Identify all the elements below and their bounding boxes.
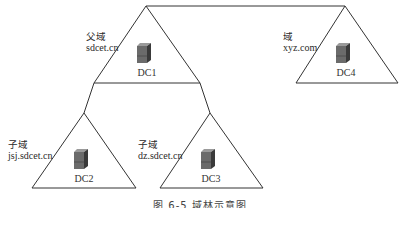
controller-label-dc2: DC2: [69, 173, 99, 184]
server-icon: [137, 43, 151, 63]
domain-name: dz.sdcet.cn: [138, 150, 182, 161]
domain-type-label: 子域: [138, 139, 182, 150]
controller-label-dc1: DC1: [132, 67, 162, 78]
server-icon: [74, 149, 88, 169]
domain-type-label: 父域: [86, 31, 119, 42]
domain-label-dc3: 子域 dz.sdcet.cn: [138, 139, 182, 161]
domain-type-label: 域: [283, 31, 317, 42]
server-icon: [336, 43, 350, 63]
domain-name: sdcet.cn: [86, 42, 119, 53]
controller-label-dc3: DC3: [196, 173, 226, 184]
domain-name: jsj.sdcet.cn: [8, 150, 52, 161]
domain-label-dc2: 子域 jsj.sdcet.cn: [8, 139, 52, 161]
domain-name: xyz.com: [283, 42, 317, 53]
link-dc1-dc3: [200, 83, 210, 113]
domain-label-dc1: 父域 sdcet.cn: [86, 31, 119, 53]
controller-label-dc4: DC4: [331, 67, 361, 78]
domain-type-label: 子域: [8, 139, 52, 150]
domain-label-dc4: 域 xyz.com: [283, 31, 317, 53]
link-dc1-dc2: [84, 83, 94, 113]
server-icon: [201, 149, 215, 169]
figure-caption: 图 6-5 域林示意图: [0, 197, 400, 208]
